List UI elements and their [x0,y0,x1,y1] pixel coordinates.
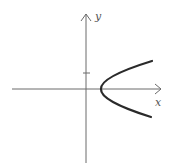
coordinate-diagram: y x [0,0,172,168]
x-axis-label: x [155,96,162,109]
y-axis-label: y [94,10,102,23]
